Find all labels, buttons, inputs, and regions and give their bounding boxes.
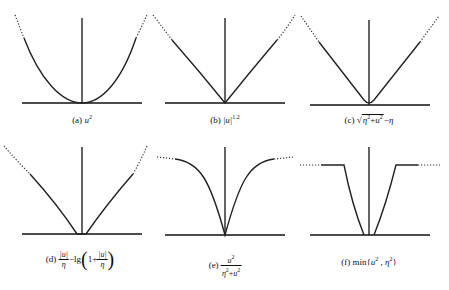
panel-d-caption: (d) |u|η−lg(1+|u|η)	[46, 248, 115, 271]
caption-exponent: 2	[232, 254, 235, 260]
panel-b-curve-right-dotted	[277, 15, 295, 40]
panel-f-caption: (f) min{u2 , η2}	[341, 256, 397, 267]
fraction: |u|η	[97, 250, 107, 269]
caption-min: min{	[352, 257, 370, 267]
loss-functions-figure	[0, 0, 449, 290]
fraction: u2η2+u2	[221, 253, 241, 278]
caption-exponent: 2	[237, 267, 240, 273]
panel-e-curve-left-dotted	[157, 157, 175, 159]
caption-exponent: 2	[380, 114, 383, 120]
caption-tag: (f)	[341, 257, 350, 267]
caption-tag: (a)	[72, 115, 82, 125]
caption-separator: ,	[378, 257, 385, 267]
caption-exponent: 1.2	[232, 114, 240, 120]
caption-lparen: (	[81, 248, 88, 270]
panel-a-curve	[24, 38, 136, 103]
fraction-denominator: η	[97, 260, 107, 269]
caption-exponent: 2	[89, 114, 92, 120]
panel-b-curve-left-dotted	[153, 15, 172, 40]
sqrt-radicand: η2+u2	[362, 114, 384, 125]
panel-a-caption: (a) u2	[72, 114, 92, 125]
fraction: |u|η	[58, 250, 68, 269]
panel-e-caption: (e) u2η2+u2	[209, 253, 242, 278]
panel-b	[153, 15, 295, 103]
panel-c-curve-left-dotted	[301, 16, 319, 42]
panel-c-caption: (c) √η2+u2−η	[345, 114, 394, 125]
caption-minus-lg: −lg	[69, 254, 81, 264]
fraction-denominator: η2+u2	[221, 266, 241, 278]
fraction-numerator: |u|	[58, 250, 68, 260]
panel-e	[157, 147, 293, 235]
caption-eta: η	[389, 115, 393, 125]
caption-tag: (d)	[46, 254, 57, 264]
panel-d	[4, 146, 147, 234]
panel-e-curve-right-dotted	[274, 157, 293, 159]
panel-a-curve-right-dotted	[136, 15, 147, 38]
fraction-denominator: η	[58, 260, 68, 269]
panel-c-curve-right-dotted	[420, 16, 439, 42]
panel-b-caption: (b) |u|1.2	[210, 114, 240, 125]
caption-tag: (b)	[210, 115, 221, 125]
caption-var: |u|	[223, 115, 232, 125]
caption-tag: (e)	[209, 260, 219, 270]
panel-d-curve-right-dotted	[133, 146, 147, 174]
caption-rparen: )	[108, 248, 115, 270]
panel-c	[301, 16, 439, 105]
panel-a	[15, 15, 147, 103]
fraction-numerator: u2	[221, 253, 241, 266]
fraction-numerator: |u|	[97, 250, 107, 260]
caption-one-plus: 1+	[88, 254, 98, 264]
panel-d-curve-left-dotted	[4, 146, 30, 174]
caption-tag: (c)	[345, 115, 355, 125]
panel-a-curve-left-dotted	[15, 15, 24, 38]
panel-f	[300, 147, 440, 235]
caption-close-brace: }	[392, 257, 396, 267]
